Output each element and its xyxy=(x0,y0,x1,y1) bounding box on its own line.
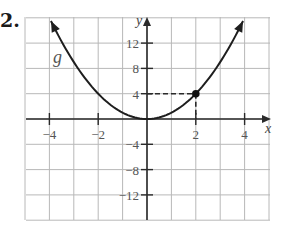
x-tick-label: 4 xyxy=(241,127,248,142)
x-tick-label: −4 xyxy=(42,127,56,142)
y-tick-label: 4 xyxy=(133,87,140,102)
highlighted-point xyxy=(192,90,200,98)
x-tick-label: 2 xyxy=(193,127,200,142)
function-label: g xyxy=(53,47,62,67)
y-axis-arrow-icon xyxy=(143,17,151,26)
y-tick-label: −12 xyxy=(119,188,139,203)
y-tick-label: −4 xyxy=(125,137,139,152)
labels: −4−2241284−4−8−12xyg xyxy=(42,13,272,203)
x-tick-label: −2 xyxy=(91,127,105,142)
parabola-graph: −4−2241284−4−8−12xyg xyxy=(0,0,287,228)
x-axis-label: x xyxy=(264,121,272,136)
y-tick-label: −8 xyxy=(125,163,139,178)
y-tick-label: 12 xyxy=(126,36,139,51)
y-tick-label: 8 xyxy=(133,61,140,76)
y-axis-label: y xyxy=(134,13,143,28)
